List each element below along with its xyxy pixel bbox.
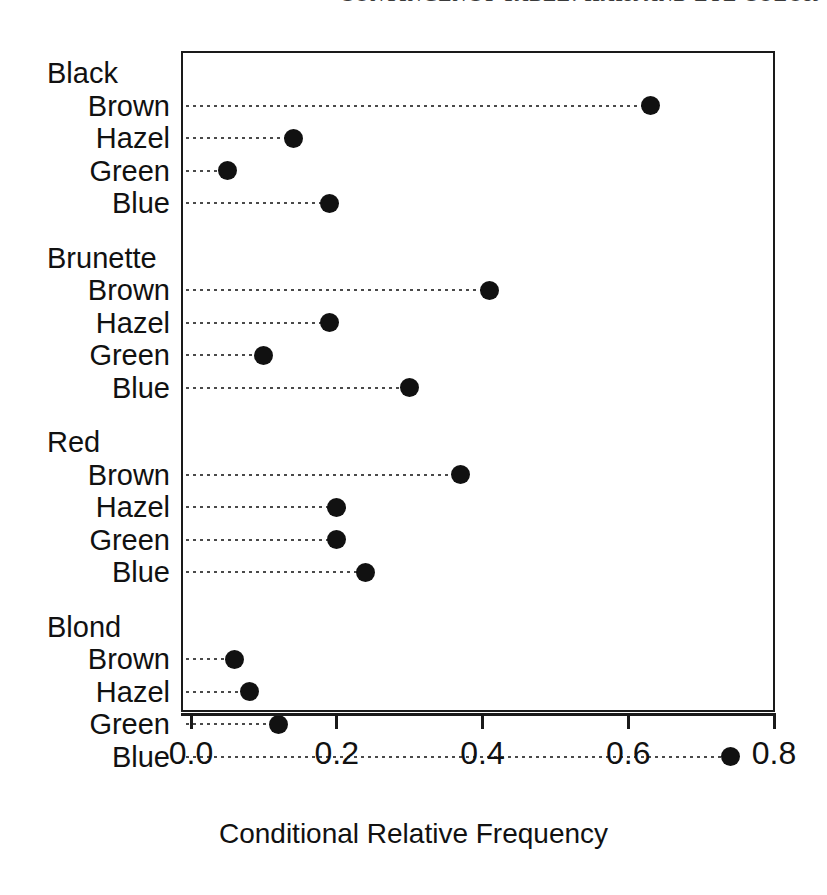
category-label-black-blue: Blue — [112, 189, 170, 218]
data-point-dot[interactable] — [400, 378, 419, 397]
category-label-red-brown: Brown — [88, 460, 170, 489]
data-point-dot[interactable] — [240, 682, 259, 701]
data-point-dot[interactable] — [641, 96, 660, 115]
leader-line — [184, 474, 460, 476]
leader-line — [184, 289, 489, 291]
leader-line — [184, 691, 248, 693]
data-point-dot[interactable] — [218, 161, 237, 180]
x-axis-tick-label: 0.4 — [460, 736, 504, 770]
x-axis-tick — [335, 713, 338, 729]
group-label-blond: Blond — [47, 612, 121, 641]
category-label-black-brown: Brown — [88, 91, 170, 120]
leader-line — [184, 387, 409, 389]
x-axis-line — [181, 713, 775, 716]
category-label-blond-brown: Brown — [88, 645, 170, 674]
data-point-dot[interactable] — [356, 563, 375, 582]
leader-line — [184, 723, 277, 725]
category-label-brunette-blue: Blue — [112, 373, 170, 402]
leader-line — [184, 137, 292, 139]
category-label-brunette-green: Green — [89, 341, 170, 370]
category-label-black-hazel: Hazel — [96, 124, 170, 153]
data-point-dot[interactable] — [327, 530, 346, 549]
data-point-dot[interactable] — [480, 281, 499, 300]
leader-line — [184, 354, 263, 356]
leader-line — [184, 322, 328, 324]
leader-line — [184, 506, 336, 508]
data-point-dot[interactable] — [254, 346, 273, 365]
category-label-blond-blue: Blue — [112, 742, 170, 771]
data-point-dot[interactable] — [284, 129, 303, 148]
x-axis-tick — [481, 713, 484, 729]
leader-line — [184, 539, 336, 541]
category-label-brunette-hazel: Hazel — [96, 308, 170, 337]
plot-rows-layer — [181, 51, 775, 712]
dot-plot-figure: BlackBrownHazelGreenBlueBrunetteBrownHaz… — [0, 0, 827, 895]
x-axis-tick-label: 0.2 — [315, 736, 359, 770]
category-label-red-blue: Blue — [112, 558, 170, 587]
y-axis-labels: BlackBrownHazelGreenBlueBrunetteBrownHaz… — [0, 51, 178, 712]
category-label-red-hazel: Hazel — [96, 493, 170, 522]
data-point-dot[interactable] — [320, 313, 339, 332]
group-label-brunette: Brunette — [47, 243, 157, 272]
data-point-dot[interactable] — [320, 194, 339, 213]
data-point-dot[interactable] — [451, 465, 470, 484]
data-point-dot[interactable] — [225, 650, 244, 669]
x-axis-tick-label: 0.6 — [606, 736, 650, 770]
group-label-black: Black — [47, 59, 118, 88]
category-label-brunette-brown: Brown — [88, 276, 170, 305]
x-axis-tick — [773, 713, 776, 729]
x-axis-tick — [627, 713, 630, 729]
leader-line — [184, 202, 328, 204]
data-point-dot[interactable] — [327, 498, 346, 517]
data-point-dot[interactable] — [721, 747, 740, 766]
x-axis-tick-label: 0.8 — [752, 736, 796, 770]
leader-line — [184, 105, 649, 107]
category-label-black-green: Green — [89, 156, 170, 185]
group-label-red: Red — [47, 428, 100, 457]
category-label-blond-hazel: Hazel — [96, 677, 170, 706]
category-label-blond-green: Green — [89, 710, 170, 739]
category-label-red-green: Green — [89, 525, 170, 554]
x-axis-tick — [190, 713, 193, 729]
leader-line — [184, 571, 365, 573]
data-point-dot[interactable] — [269, 715, 288, 734]
x-axis-title: Conditional Relative Frequency — [0, 818, 827, 850]
x-axis-tick-label: 0.0 — [169, 736, 213, 770]
